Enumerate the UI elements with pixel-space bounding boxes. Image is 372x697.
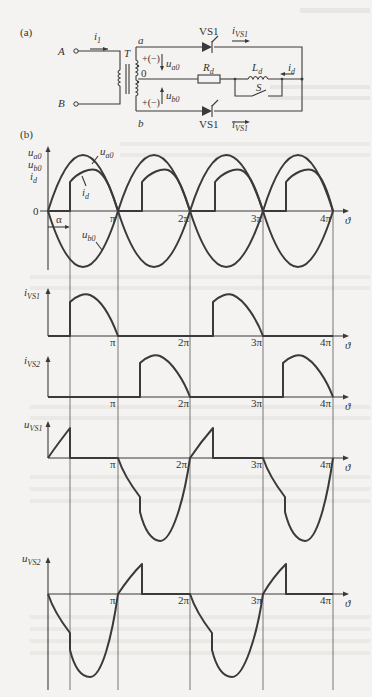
svg-text:2π: 2π <box>178 397 190 409</box>
id-curve <box>48 170 333 212</box>
svg-text:π: π <box>110 336 116 348</box>
svg-text:2π: 2π <box>178 594 190 606</box>
svg-text:uVS2: uVS2 <box>22 552 40 567</box>
origin-label: 0 <box>33 205 39 217</box>
x-axis-label: ϑ <box>345 214 351 226</box>
panel-a-label: (a) <box>20 26 33 39</box>
circuit-diagram: (a) A B i1 T a b 0 +(−) +(−) ua0 <box>20 24 304 133</box>
terminal-B-label: B <box>58 97 65 109</box>
svg-text:π: π <box>110 594 116 606</box>
svg-text:4π: 4π <box>320 397 332 409</box>
panel-uvs2: uVS2 π 2π 3π 4π ϑ <box>22 552 351 690</box>
polarity-bottom-label: +(−) <box>142 97 160 109</box>
svg-text:π: π <box>110 458 116 470</box>
resistor-icon <box>198 75 220 83</box>
thyristor-bottom-label: VS1 <box>199 118 219 130</box>
rectifier-figure: (a) A B i1 T a b 0 +(−) +(−) ua0 <box>0 0 372 697</box>
voltage-ua0-label: ua0 <box>166 57 180 72</box>
current-arrow-left-icon <box>280 72 285 76</box>
secondary-coil-icon <box>136 47 138 111</box>
panel-uvs1: uVS1 π 2π 3π 4π ϑ <box>24 418 351 541</box>
thyristor-top-label: VS1 <box>199 25 219 37</box>
current-arrow-right-icon <box>245 39 250 43</box>
terminal-A-icon <box>74 49 78 53</box>
ua0-curve-label: ua0 <box>100 145 114 160</box>
svg-text:3π: 3π <box>251 397 263 409</box>
ua0-curve <box>48 155 333 211</box>
vertical-gridlines <box>70 185 333 690</box>
svg-text:uVS1: uVS1 <box>24 418 42 433</box>
svg-text:iVS2: iVS2 <box>24 354 40 369</box>
uvs1-curve <box>48 428 333 541</box>
voltage-arrow-up-icon <box>160 87 164 92</box>
ub0-curve-label: ub0 <box>82 228 96 243</box>
polarity-top-label: +(−) <box>142 53 160 65</box>
panel-b-label: (b) <box>20 128 33 141</box>
svg-text:π: π <box>110 397 116 409</box>
id-curve-label: id <box>82 186 90 201</box>
svg-text:4π: 4π <box>320 594 332 606</box>
voltage-arrow-down-icon <box>160 66 164 71</box>
svg-text:ϑ: ϑ <box>345 400 351 412</box>
svg-text:4π: 4π <box>320 336 332 348</box>
svg-text:ϑ: ϑ <box>345 597 351 609</box>
center-tap-label: 0 <box>141 67 147 79</box>
thyristor-vs1-top-icon <box>202 36 218 53</box>
svg-text:3π: 3π <box>251 458 263 470</box>
node-b-label: b <box>138 117 144 129</box>
thyristor-vs1-bottom-icon <box>202 100 218 117</box>
svg-text:3π: 3π <box>251 336 263 348</box>
alpha-label: α <box>56 213 62 225</box>
transformer-label: T <box>124 47 131 59</box>
svg-text:ϑ: ϑ <box>345 339 351 351</box>
inductor-icon <box>248 77 268 80</box>
terminal-B-icon <box>74 102 78 106</box>
thyristor-current-top-label: iVS1 <box>232 24 248 39</box>
ivs1-curve <box>48 294 333 336</box>
primary-coil-icon <box>118 70 120 86</box>
panel-ua0-ub0-id: ua0 ub0 id 0 ϑ π 2π 3π 4π α ua0 id ub0 <box>28 145 351 270</box>
svg-text:4π: 4π <box>320 458 332 470</box>
voltage-ub0-label: ub0 <box>166 89 180 104</box>
inductor-label: Ld <box>251 61 263 76</box>
terminal-A-label: A <box>57 45 65 57</box>
primary-current-label: i1 <box>94 30 101 45</box>
panel-ivs1: iVS1 π 2π 3π 4π ϑ <box>24 286 351 351</box>
panel-ivs2: iVS2 π 2π 3π 4π ϑ <box>24 354 351 412</box>
resistor-label: Rd <box>202 61 215 76</box>
switch-label: S <box>256 81 262 93</box>
svg-text:ϑ: ϑ <box>345 461 351 473</box>
uvs2-curve <box>48 564 333 677</box>
svg-text:2π: 2π <box>176 458 188 470</box>
ivs2-curve <box>48 355 333 397</box>
background-page-text <box>30 8 370 655</box>
svg-text:2π: 2π <box>178 336 190 348</box>
node-a-label: a <box>138 34 144 46</box>
